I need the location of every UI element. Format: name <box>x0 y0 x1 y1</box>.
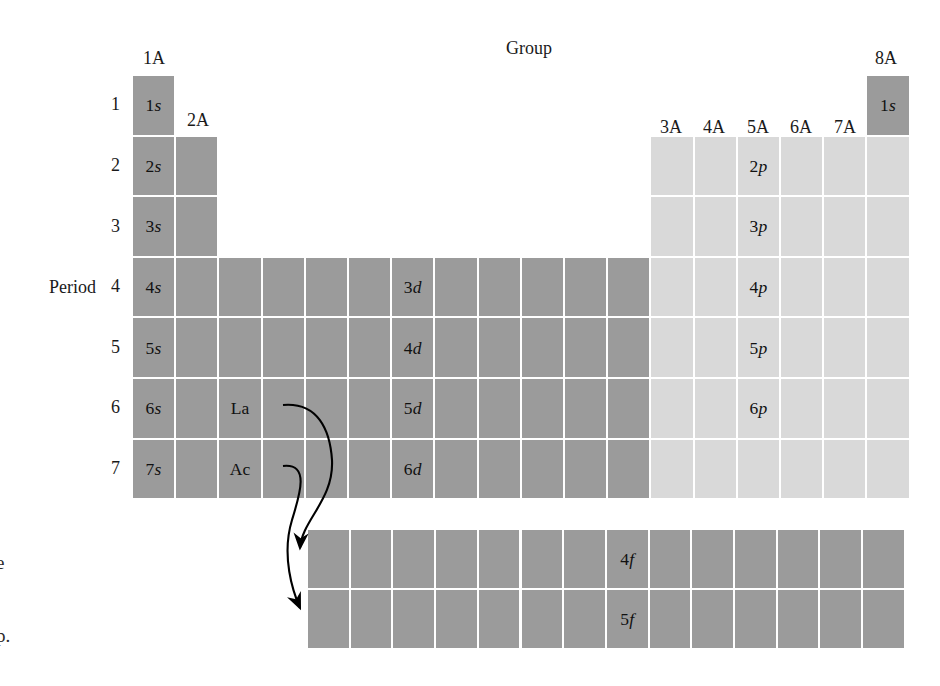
grid-cell-r6-c5 <box>305 378 348 439</box>
f-block-cell-r2-c7 <box>563 589 606 649</box>
grid-cell-r4-c7: 3d <box>391 257 434 318</box>
group-header-8a: 8A <box>868 48 904 69</box>
grid-cell-r5-c6 <box>348 317 391 378</box>
grid-cell-r4-c5 <box>305 257 348 318</box>
grid-cell-r7-c2 <box>175 439 218 500</box>
f-block-cell-r1-c13 <box>819 529 862 589</box>
period-axis-title: Period <box>49 277 96 298</box>
f-block-cell-r2-c9 <box>649 589 692 649</box>
grid-cell-r5-c8 <box>434 317 477 378</box>
f-block-cell-r1-c11 <box>734 529 777 589</box>
grid-cell-r5-c4 <box>262 317 305 378</box>
grid-cell-r4-c10 <box>521 257 564 318</box>
f-block-cell-r2-c8: 5f <box>606 589 649 649</box>
grid-cell-r5-c11 <box>564 317 607 378</box>
grid-cell-r6-c12 <box>607 378 650 439</box>
f-block-cell-r1-c6 <box>521 529 564 589</box>
group-header-2a: 2A <box>180 110 216 131</box>
grid-cell-r7-c16 <box>780 439 823 500</box>
orbital-label-4f: 4f <box>620 549 634 570</box>
group-header-1a: 1A <box>136 48 172 69</box>
grid-cell-r4-c13 <box>650 257 693 318</box>
grid-cell-r6-c10 <box>521 378 564 439</box>
caption-fragment-2: p. <box>0 625 10 647</box>
grid-cell-r2-c15: 2p <box>737 136 780 197</box>
grid-cell-r5-c15: 5p <box>737 317 780 378</box>
grid-cell-r6-c11 <box>564 378 607 439</box>
grid-cell-r7-c8 <box>434 439 477 500</box>
orbital-label-3d: 3d <box>404 277 422 298</box>
orbital-label-5d: 5d <box>404 398 422 419</box>
f-block-cell-r2-c6 <box>521 589 564 649</box>
orbital-label-6s: 6s <box>146 398 162 419</box>
grid-cell-r2-c13 <box>650 136 693 197</box>
grid-cell-r7-c12 <box>607 439 650 500</box>
element-label-ac: Ac <box>230 458 250 479</box>
grid-cell-r3-c14 <box>694 196 737 257</box>
periodic-table-figure: Group Period 1A2A3A4A5A6A7A8A 1234567 1s… <box>0 0 940 686</box>
grid-cell-r3-c13 <box>650 196 693 257</box>
grid-cell-r7-c4 <box>262 439 305 500</box>
grid-cell-r1-c1: 1s <box>132 75 175 136</box>
period-number-3: 3 <box>98 216 120 237</box>
grid-cell-r4-c12 <box>607 257 650 318</box>
grid-cell-r4-c6 <box>348 257 391 318</box>
grid-cell-r7-c10 <box>521 439 564 500</box>
period-number-1: 1 <box>98 94 120 115</box>
grid-cell-r2-c14 <box>694 136 737 197</box>
grid-cell-r4-c3 <box>218 257 261 318</box>
grid-cell-r2-c17 <box>823 136 866 197</box>
grid-cell-r7-c11 <box>564 439 607 500</box>
period-number-4: 4 <box>98 276 120 297</box>
f-block-cell-r1-c12 <box>777 529 820 589</box>
f-block-cell-r2-c3 <box>392 589 435 649</box>
f-block-cell-r1-c14 <box>862 529 905 589</box>
group-axis-title: Group <box>506 38 552 59</box>
grid-cell-r5-c13 <box>650 317 693 378</box>
grid-cell-r3-c18 <box>866 196 909 257</box>
grid-cell-r4-c14 <box>694 257 737 318</box>
grid-cell-r6-c3: La <box>218 378 261 439</box>
period-number-6: 6 <box>98 397 120 418</box>
f-block-cell-r1-c10 <box>691 529 734 589</box>
period-number-5: 5 <box>98 337 120 358</box>
grid-cell-r7-c18 <box>866 439 909 500</box>
grid-cell-r4-c8 <box>434 257 477 318</box>
grid-cell-r7-c13 <box>650 439 693 500</box>
grid-cell-r3-c16 <box>780 196 823 257</box>
grid-cell-r5-c16 <box>780 317 823 378</box>
grid-cell-r6-c6 <box>348 378 391 439</box>
grid-cell-r7-c17 <box>823 439 866 500</box>
orbital-label-4p: 4p <box>749 277 767 298</box>
grid-cell-r6-c4 <box>262 378 305 439</box>
f-block-cell-r1-c3 <box>392 529 435 589</box>
grid-cell-r1-c18: 1s <box>866 75 909 136</box>
f-block-cell-r2-c4 <box>435 589 478 649</box>
grid-cell-r2-c1: 2s <box>132 136 175 197</box>
grid-cell-r4-c17 <box>823 257 866 318</box>
orbital-label-6p: 6p <box>749 398 767 419</box>
orbital-label-1s: 1s <box>880 95 896 116</box>
grid-cell-r5-c1: 5s <box>132 317 175 378</box>
f-block-cell-r1-c5 <box>478 529 521 589</box>
grid-cell-r4-c4 <box>262 257 305 318</box>
grid-cell-r4-c9 <box>478 257 521 318</box>
grid-cell-r6-c18 <box>866 378 909 439</box>
grid-cell-r6-c13 <box>650 378 693 439</box>
grid-cell-r6-c7: 5d <box>391 378 434 439</box>
grid-cell-r5-c7: 4d <box>391 317 434 378</box>
grid-cell-r5-c3 <box>218 317 261 378</box>
grid-cell-r5-c17 <box>823 317 866 378</box>
f-block-cell-r2-c13 <box>819 589 862 649</box>
grid-cell-r2-c2 <box>175 136 218 197</box>
grid-cell-r6-c15: 6p <box>737 378 780 439</box>
grid-cell-r7-c1: 7s <box>132 439 175 500</box>
grid-cell-r4-c15: 4p <box>737 257 780 318</box>
orbital-label-5f: 5f <box>620 609 634 630</box>
period-number-2: 2 <box>98 155 120 176</box>
orbital-label-7s: 7s <box>146 458 162 479</box>
orbital-label-2p: 2p <box>749 155 767 176</box>
orbital-label-2s: 2s <box>146 155 162 176</box>
f-block-cell-r2-c10 <box>691 589 734 649</box>
grid-cell-r3-c15: 3p <box>737 196 780 257</box>
